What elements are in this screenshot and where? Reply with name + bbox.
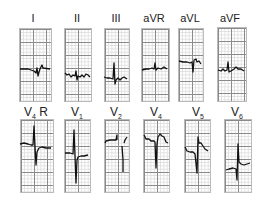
ecg-trace <box>0 0 264 202</box>
